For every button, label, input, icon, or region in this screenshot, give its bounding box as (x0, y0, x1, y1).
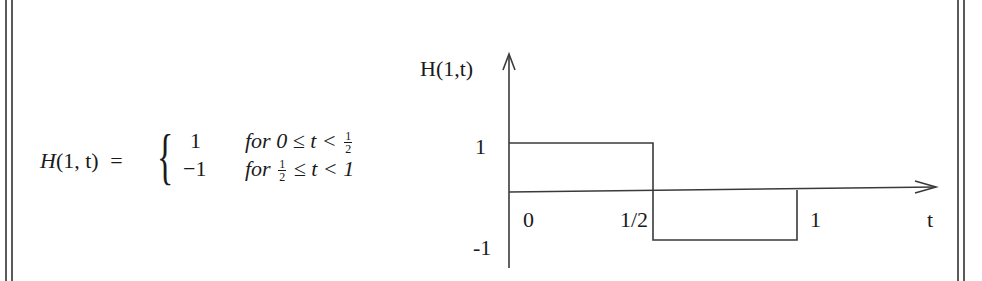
x-tick-0: 0 (523, 207, 534, 233)
y-tick-neg1: -1 (473, 235, 491, 261)
y-axis-label: H(1,t) (420, 56, 473, 82)
x-tick-half: 1/2 (620, 207, 648, 233)
x-tick-1: 1 (810, 207, 821, 233)
x-axis-label: t (927, 207, 933, 233)
y-tick-1: 1 (475, 134, 486, 160)
x-axis (509, 187, 936, 192)
